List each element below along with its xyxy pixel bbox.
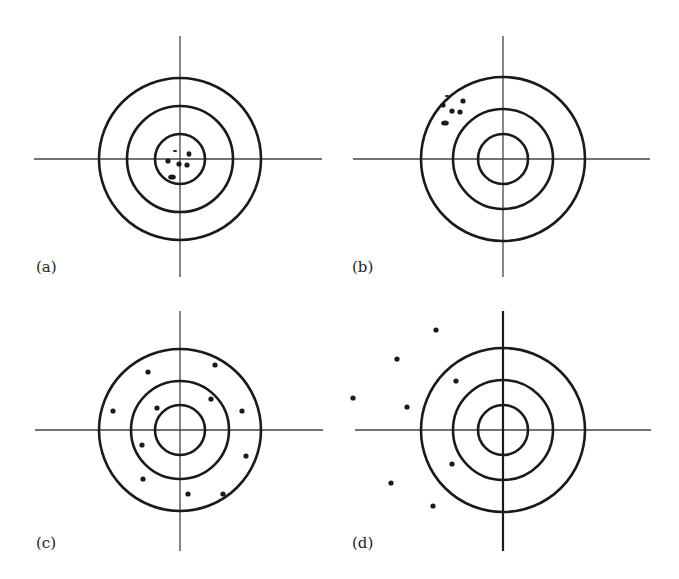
shot-dot — [404, 404, 409, 409]
shot-dot — [187, 151, 192, 157]
shot-dot — [165, 158, 170, 163]
shot-dot — [212, 362, 217, 367]
target-diagram-figure: (a) (b) (c) (d) — [0, 0, 679, 579]
shot-dot — [139, 442, 144, 447]
shot-dot — [184, 162, 189, 167]
shot-dot — [449, 461, 454, 466]
shot-dot — [220, 491, 225, 496]
shot-dot — [176, 161, 181, 166]
shot-dot — [460, 98, 465, 103]
shot-dot — [440, 102, 445, 107]
shot-dot — [243, 453, 248, 458]
shot-dot — [185, 491, 190, 496]
panel-label-a: (a) — [36, 258, 57, 276]
shot-dot — [168, 174, 176, 179]
shot-dot — [457, 109, 462, 114]
panel-label-b: (b) — [352, 258, 373, 276]
shot-dot — [445, 95, 449, 97]
panel-label-d: (d) — [352, 534, 373, 552]
shot-dot — [145, 369, 150, 374]
shot-dot — [239, 408, 244, 413]
shot-dot — [430, 503, 435, 508]
shot-dot — [433, 327, 438, 332]
shot-dot — [350, 395, 355, 400]
shot-dot — [441, 120, 449, 125]
shot-dot — [110, 408, 115, 413]
shot-dot — [154, 405, 159, 410]
background — [0, 0, 679, 579]
shot-dot — [173, 150, 177, 152]
shot-dot — [449, 108, 454, 113]
shot-dot — [388, 480, 393, 485]
panel-label-c: (c) — [36, 534, 56, 552]
shot-dot — [140, 476, 145, 481]
shot-dot — [394, 356, 399, 361]
shot-dot — [453, 378, 458, 383]
shot-dot — [208, 396, 213, 401]
